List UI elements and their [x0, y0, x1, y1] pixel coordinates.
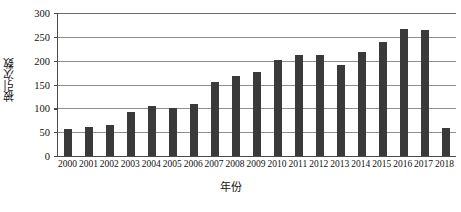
bar: [379, 42, 387, 156]
y-axis-tick-labels: 050100150200250300: [18, 0, 54, 170]
bar-chart: 被引次数 050100150200250300 2000200120022003…: [0, 0, 461, 212]
y-axis-tick-label: 200: [34, 55, 50, 66]
bar: [316, 55, 324, 156]
bar: [295, 55, 303, 156]
y-axis-tick-label: 0: [45, 151, 50, 162]
y-axis-tick-label: 50: [40, 127, 51, 138]
y-axis-tick-label: 300: [34, 8, 50, 19]
x-axis-tick-label: 2013: [330, 159, 349, 169]
x-axis-title-text: 年份: [220, 178, 242, 194]
x-axis-tick-label: 2016: [393, 159, 412, 169]
x-axis-tick-label: 2012: [309, 159, 328, 169]
bar: [274, 60, 282, 156]
bar: [421, 30, 429, 156]
x-axis-tick-labels: 2000200120022003200420052006200720082009…: [57, 159, 455, 175]
x-axis-tick-label: 2002: [100, 159, 119, 169]
bar: [190, 104, 198, 156]
y-axis-tick-label: 100: [34, 103, 50, 114]
x-axis-tick-label: 2000: [58, 159, 77, 169]
x-axis-tick-label: 2010: [267, 159, 286, 169]
bar: [127, 112, 135, 156]
x-axis-tick-label: 2018: [435, 159, 454, 169]
x-axis-tick-label: 2007: [205, 159, 224, 169]
y-axis-tick-label: 250: [34, 31, 50, 42]
y-axis-tick-label: 150: [34, 79, 50, 90]
y-axis-title-text: 被引次数: [4, 58, 15, 102]
bar: [106, 125, 114, 156]
x-axis-tick-label: 2015: [372, 159, 391, 169]
bar: [85, 127, 93, 156]
x-axis-tick-label: 2003: [121, 159, 140, 169]
plot-area: [57, 13, 456, 157]
bar: [400, 29, 408, 156]
bar: [442, 128, 450, 156]
x-axis-tick-label: 2014: [351, 159, 370, 169]
x-axis-tick-label: 2017: [414, 159, 433, 169]
x-axis-tick-label: 2011: [289, 159, 308, 169]
x-axis-tick-label: 2001: [79, 159, 98, 169]
bar: [232, 76, 240, 156]
x-axis-tick-label: 2006: [184, 159, 203, 169]
x-axis-tick-label: 2005: [163, 159, 182, 169]
bar: [64, 129, 72, 156]
bar: [211, 82, 219, 156]
x-axis-tick-label: 2009: [247, 159, 266, 169]
y-axis-title: 被引次数: [0, 0, 18, 160]
bar: [358, 52, 366, 156]
x-axis-tick-label: 2008: [226, 159, 245, 169]
bar: [337, 65, 345, 156]
x-axis-title: 年份: [0, 178, 461, 194]
bar: [253, 72, 261, 156]
bar-series: [58, 13, 456, 156]
y-axis-tick-mark: [54, 156, 58, 157]
bar: [169, 108, 177, 156]
bar: [148, 106, 156, 156]
x-axis-tick-label: 2004: [142, 159, 161, 169]
